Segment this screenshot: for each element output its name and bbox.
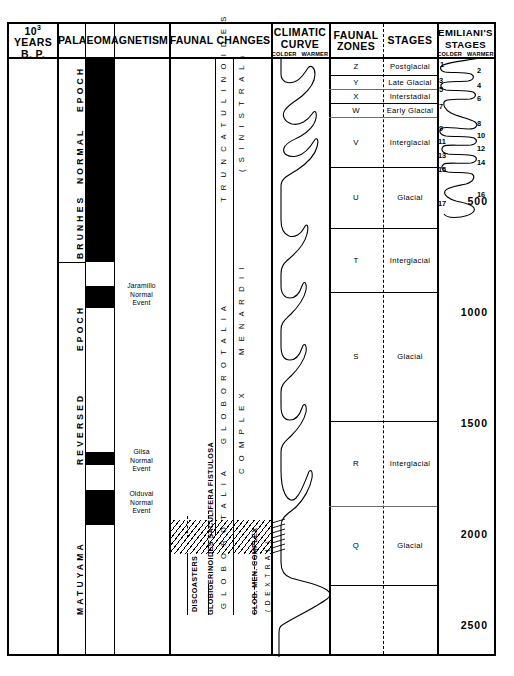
emiliani-number-8: 8 bbox=[477, 119, 481, 128]
emiliani-number-11: 11 bbox=[438, 137, 446, 146]
emiliani-number-4: 4 bbox=[477, 81, 481, 90]
emiliani-number-1: 1 bbox=[440, 60, 444, 69]
emiliani-number-3: 3 bbox=[439, 76, 443, 85]
emiliani-number-6: 6 bbox=[477, 94, 481, 103]
chart-frame: 103 YEARS B. P. PALAEOMAGNETISM FAUNAL C… bbox=[7, 22, 496, 656]
emiliani-number-16: 16 bbox=[477, 190, 485, 199]
emiliani-number-7: 7 bbox=[439, 102, 443, 111]
emiliani-number-12: 12 bbox=[477, 144, 485, 153]
emiliani-number-14: 14 bbox=[477, 158, 485, 167]
emiliani-curve-svg bbox=[9, 24, 498, 658]
stratigraphic-chart-page: 103 YEARS B. P. PALAEOMAGNETISM FAUNAL C… bbox=[0, 0, 514, 676]
emiliani-number-17: 17 bbox=[438, 199, 446, 208]
emiliani-number-10: 10 bbox=[477, 131, 485, 140]
emiliani-number-9: 9 bbox=[439, 124, 443, 133]
emiliani-number-5: 5 bbox=[439, 85, 443, 94]
emiliani-number-15: 15 bbox=[438, 165, 446, 174]
emiliani-number-13: 13 bbox=[438, 151, 446, 160]
emiliani-number-2: 2 bbox=[477, 66, 481, 75]
